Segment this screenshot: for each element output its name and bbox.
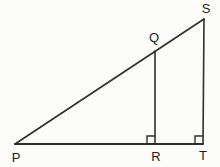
vertex-label-S: S [202, 1, 211, 16]
vertex-label-P: P [12, 150, 21, 165]
vertex-label-T: T [199, 148, 207, 163]
geometry-figure: PQRST [0, 0, 220, 167]
segment-ST [203, 19, 204, 144]
geometry-diagram-svg: PQRST [0, 0, 220, 167]
vertex-label-R: R [151, 149, 160, 164]
right-angle-mark-T [195, 136, 203, 144]
vertex-label-Q: Q [149, 30, 159, 45]
segment-PS [15, 19, 204, 144]
right-angle-mark-R [147, 136, 155, 144]
